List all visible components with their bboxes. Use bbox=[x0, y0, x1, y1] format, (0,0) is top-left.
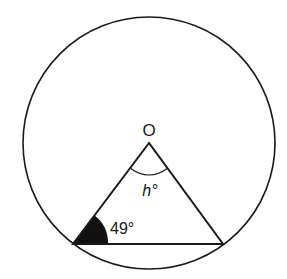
center-angle-label: h° bbox=[142, 182, 158, 199]
center-angle-arc bbox=[130, 168, 168, 175]
base-angle-label: 49° bbox=[110, 220, 134, 237]
circle-diagram: O h° 49° bbox=[0, 0, 287, 279]
center-label-o: O bbox=[142, 121, 155, 140]
